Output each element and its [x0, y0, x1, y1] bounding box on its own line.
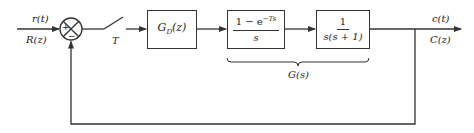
plant-transfer-function: 1 s(s + 1)	[323, 16, 362, 43]
sampler-switch	[104, 17, 123, 29]
output-time-label: c(t)	[432, 14, 449, 24]
input-time-label: r(t)	[32, 14, 49, 24]
sampler-label: T	[112, 36, 119, 46]
zoh-block: 1 − e−Ts s	[227, 10, 285, 49]
output-z-label: C(z)	[430, 35, 451, 45]
controller-transfer-function: GD(z)	[158, 22, 187, 36]
plant-block: 1 s(s + 1)	[316, 10, 370, 49]
g-s-label: G(s)	[288, 70, 309, 80]
input-z-label: R(z)	[26, 35, 47, 45]
g-s-brace	[227, 58, 369, 66]
controller-block: GD(z)	[147, 10, 197, 49]
zoh-transfer-function: 1 − e−Ts s	[233, 15, 280, 43]
minus-sign: −	[68, 32, 76, 41]
